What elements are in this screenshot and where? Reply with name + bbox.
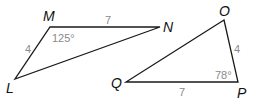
triangle-lmn	[15, 27, 160, 79]
triangle-diagram: M N L O P Q 7 4 4 7 125° 78°	[0, 0, 259, 110]
vertex-label-l: L	[6, 80, 14, 96]
angle-label-m: 125°	[52, 32, 75, 44]
vertex-label-o: O	[219, 3, 230, 19]
side-label-lm: 4	[25, 43, 31, 55]
vertex-label-p: P	[237, 85, 247, 101]
angle-label-p: 78°	[215, 69, 232, 81]
vertex-label-m: M	[43, 8, 55, 24]
vertex-label-n: N	[163, 19, 174, 35]
side-label-op: 4	[234, 43, 240, 55]
side-label-qp: 7	[179, 86, 185, 98]
vertex-label-q: Q	[111, 75, 122, 91]
side-label-mn: 7	[105, 14, 111, 26]
